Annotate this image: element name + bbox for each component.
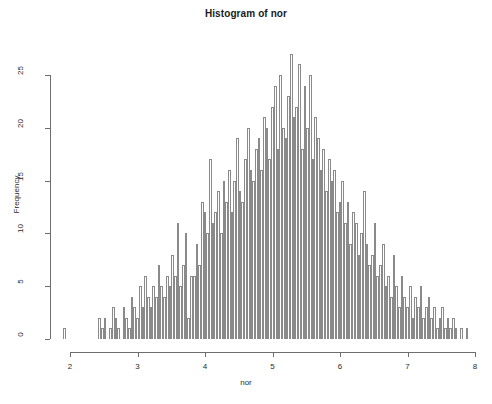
x-axis-label: nor [0,378,492,387]
histogram-bar [104,318,107,339]
y-tick-mark [45,128,50,129]
x-tick-mark [205,352,206,357]
histogram-bar [63,328,66,339]
y-tick-label: 20 [16,103,25,143]
y-tick-label: 0 [16,315,25,355]
y-axis-line [50,75,51,339]
histogram-bar [460,328,463,339]
histogram-figure: Histogram of nor 0510152025 2345678 Freq… [0,0,492,404]
x-tick-label: 4 [195,362,215,371]
x-tick-mark [273,352,274,357]
y-tick-mark [45,181,50,182]
y-tick-label: 5 [16,262,25,302]
x-tick-label: 2 [60,362,80,371]
y-tick-mark [45,286,50,287]
x-tick-label: 6 [330,362,350,371]
histogram-bar [455,328,458,339]
y-tick-mark [45,75,50,76]
y-tick-mark [45,339,50,340]
x-tick-label: 3 [128,362,148,371]
bars-layer [0,0,492,404]
histogram-bar [117,328,120,339]
x-tick-mark [475,352,476,357]
y-axis-label: Frequency [12,155,21,235]
x-tick-label: 5 [263,362,283,371]
x-tick-mark [70,352,71,357]
histogram-bar [466,328,469,339]
x-tick-label: 8 [465,362,485,371]
y-tick-label: 25 [16,51,25,91]
x-tick-mark [138,352,139,357]
y-tick-mark [45,233,50,234]
x-tick-label: 7 [398,362,418,371]
x-tick-mark [408,352,409,357]
x-tick-mark [340,352,341,357]
plot-area: 0510152025 2345678 Frequency nor [0,0,492,404]
